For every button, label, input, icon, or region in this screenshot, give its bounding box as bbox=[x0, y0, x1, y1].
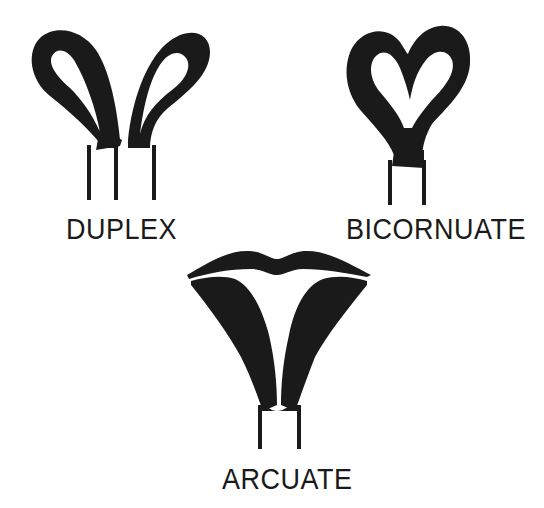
bicornuate-uterus-shape bbox=[340, 20, 480, 205]
duplex-uterus-shape bbox=[0, 0, 272, 200]
arcuate-uterus-shape bbox=[185, 245, 375, 450]
arcuate-uterus-figure bbox=[185, 245, 375, 450]
bicornuate-uterus-figure bbox=[340, 20, 480, 205]
arcuate-label: ARCUATE bbox=[222, 462, 353, 497]
duplex-label: DUPLEX bbox=[66, 212, 177, 247]
bicornuate-label: BICORNUATE bbox=[346, 212, 526, 247]
duplex-uterus-figure bbox=[0, 0, 272, 200]
